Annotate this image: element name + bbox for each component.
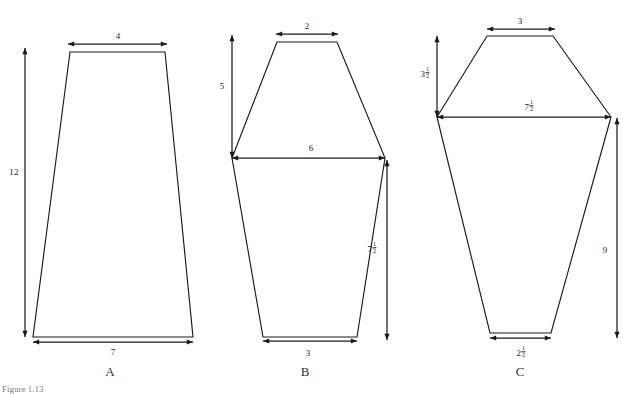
dimension-a-height-arrow-end: [22, 331, 27, 337]
dimension-a-bottom-width: [33, 339, 193, 344]
dimension-c-upper-height: [434, 36, 439, 117]
dimension-b-middle-width-value: 6: [309, 144, 314, 153]
dimension-c-top-width-value: 3: [518, 17, 523, 26]
dimension-c-top-width: [487, 26, 555, 31]
dimension-a-top-width: [68, 41, 167, 46]
dimension-b-lower-right-side-arrow-start: [384, 160, 389, 166]
dimension-c-right-height-value: 9: [603, 246, 608, 255]
dimension-b-upper-height-arrow-end: [229, 152, 234, 158]
dimension-b-middle-width: [232, 155, 385, 160]
shape-label-c: C: [516, 364, 525, 380]
dimension-c-middle-width: [437, 114, 611, 119]
dimension-a-top-width-arrow-start: [68, 41, 74, 46]
dimension-a-bottom-width-arrow-end: [187, 339, 193, 344]
shape-label-b: B: [301, 364, 310, 380]
dimension-a-height-value: 12: [9, 168, 18, 177]
dimension-b-upper-height: [229, 35, 234, 158]
dimension-b-top-width-arrow-start: [276, 31, 282, 36]
shape-label-a: A: [105, 364, 114, 380]
shape-outline-b: [232, 42, 385, 337]
dimension-a-bottom-width-value: 7: [111, 348, 116, 357]
figure-a: [22, 41, 193, 344]
dimension-c-middle-width-value: 712: [524, 99, 533, 112]
dimension-c-right-height: [614, 118, 619, 338]
dimension-b-bottom-width-value: 3: [306, 349, 311, 358]
dimension-b-top-width-value: 2: [305, 22, 310, 31]
dimension-c-right-height-arrow-end: [614, 332, 619, 338]
dimension-b-top-width-arrow-end: [332, 31, 338, 36]
dimension-c-middle-width-whole: 7: [524, 102, 529, 112]
dimension-b-lower-right-side-arrow-end: [384, 334, 389, 340]
dimension-c-bottom-width-arrow-end: [545, 335, 551, 340]
dimension-b-upper-height-value: 5: [220, 82, 225, 91]
dimension-a-height-arrow-start: [22, 48, 27, 54]
dimension-c-upper-height-value: 312: [420, 66, 429, 79]
shape-outline-c: [437, 36, 611, 333]
dimension-b-lower-right-side-value: 712: [367, 241, 376, 254]
figure-b: [229, 31, 389, 343]
figure-sheet: 4712A2635712B37122123129C Figure 1.13: [0, 0, 629, 394]
dimension-b-bottom-width-arrow-start: [263, 338, 269, 343]
dimension-b-bottom-width: [263, 338, 357, 343]
dimension-b-upper-height-arrow-start: [229, 35, 234, 41]
dimension-c-upper-height-arrow-start: [434, 36, 439, 42]
dimension-c-bottom-width-value: 212: [516, 345, 525, 358]
dimension-c-bottom-width-arrow-start: [490, 335, 496, 340]
figure-c: [434, 26, 619, 340]
dimension-c-right-height-arrow-start: [614, 118, 619, 124]
dimension-c-upper-height-whole: 3: [420, 69, 425, 79]
dimension-c-bottom-width: [490, 335, 551, 340]
dimension-b-top-width: [276, 31, 338, 36]
dimension-b-lower-right-side-whole: 7: [367, 244, 372, 254]
dimension-a-height: [22, 48, 27, 337]
dimension-a-bottom-width-arrow-start: [33, 339, 39, 344]
figure-caption: Figure 1.13: [2, 384, 132, 394]
dimension-b-bottom-width-arrow-end: [351, 338, 357, 343]
dimension-a-top-width-arrow-end: [161, 41, 167, 46]
shape-outline-a: [33, 52, 193, 337]
geometry-drawing: [0, 0, 629, 394]
dimension-a-top-width-value: 4: [116, 32, 121, 41]
dimension-c-bottom-width-whole: 2: [516, 348, 521, 358]
dimension-c-middle-width-fraction: 12: [530, 99, 534, 112]
dimension-c-top-width-arrow-end: [549, 26, 555, 31]
dimension-c-upper-height-fraction: 12: [426, 66, 430, 79]
dimension-b-lower-right-side: [384, 160, 389, 340]
dimension-c-bottom-width-fraction: 12: [522, 345, 526, 358]
dimension-c-top-width-arrow-start: [487, 26, 493, 31]
dimension-b-lower-right-side-fraction: 12: [373, 241, 377, 254]
